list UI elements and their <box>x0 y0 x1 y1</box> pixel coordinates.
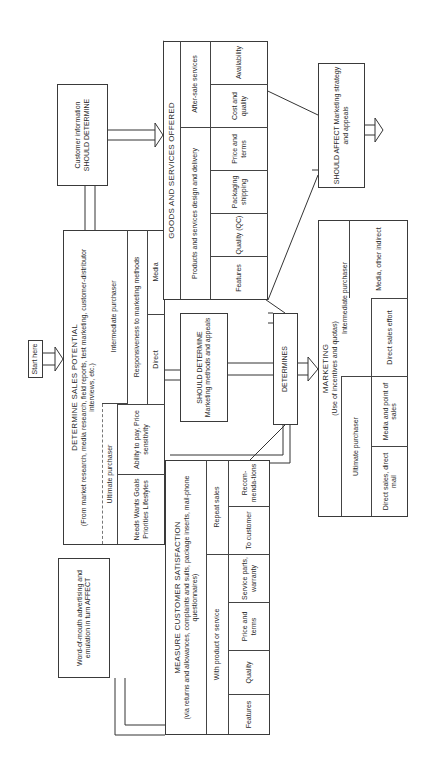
word-of-mouth-box: Word-of-mouth advertising and emulation … <box>58 558 110 678</box>
measure-features-cell: Features <box>228 694 270 734</box>
measure-to-customer-text: To customer <box>245 511 253 549</box>
word-of-mouth-label: Word-of-mouth advertising and emulation … <box>76 560 92 676</box>
marketing-ultimate-text: Ultimate purchaser <box>352 417 360 476</box>
measure-header: MEASURE CUSTOMER SATISFACTION (via retur… <box>166 461 206 734</box>
intermediate-purchaser-label: Intermediate purchaser <box>102 230 127 404</box>
marketing-intermediate-text: Intermediate purchaser <box>341 262 349 334</box>
measure-to-customer-cell: To customer <box>228 506 270 554</box>
measure-quality-text: Quality <box>245 662 253 684</box>
direct-cell: Direct <box>147 314 165 404</box>
measure-recommendations-cell: Recom-menda-tions <box>228 460 270 506</box>
direct-text: Direct <box>152 350 160 368</box>
marketing-direct-effort-cell: Direct sales effort <box>371 298 408 376</box>
marketing-direct-mail-text: Direct sales, direct mail <box>382 448 398 515</box>
after-sale-text: After-sale services <box>191 55 199 113</box>
ultimate-purchaser-label: Ultimate purchaser <box>102 404 117 544</box>
goods-price-cell: Price and terms <box>210 127 268 170</box>
measure-subtitle: (via returns and allowances, complaints … <box>183 462 199 733</box>
goods-quality-text: Quality (QC) <box>235 216 243 255</box>
ability-cell: Ability to pay, Price sensitivity <box>117 404 165 474</box>
determine-sales-potential-box: DETERMINE SALES POTENTIAL (From market r… <box>63 230 165 545</box>
determines-label: DETERMINES <box>281 346 289 392</box>
measure-quality-cell: Quality <box>228 650 270 694</box>
ultimate-purchaser-text: Ultimate purchaser <box>106 445 114 504</box>
repeat-sales-label: Repeat sales <box>206 460 228 554</box>
responsiveness-text: Responsiveness to marketing methods <box>133 257 141 378</box>
goods-packaging-text: Packaging shipping <box>231 172 247 212</box>
marketing-direct-mail-cell: Direct sales, direct mail <box>371 446 408 516</box>
measure-features-text: Features <box>245 701 253 729</box>
measure-service-text: Service parts, warranty <box>241 556 257 601</box>
goods-quality-cell: Quality (QC) <box>210 213 268 256</box>
measure-service-cell: Service parts, warranty <box>228 554 270 602</box>
determine-sales-subtitle: (From market research, media research, f… <box>80 232 96 543</box>
customer-information-label: Customer information SHOULD DETERMINE <box>74 86 90 184</box>
goods-availability-text: Availability <box>235 46 243 79</box>
measure-price-text: Price and terms <box>241 604 257 649</box>
goods-availability-cell: Availability <box>210 41 268 84</box>
determine-sales-title: DETERMINE SALES POTENTIAL <box>70 324 79 451</box>
should-determine-box: SHOULD DETERMINE Marketing methods and a… <box>180 313 228 422</box>
start-here-box: Start here <box>28 340 43 378</box>
marketing-media-other-text: Media, other indirect <box>375 227 383 290</box>
marketing-box: MARKETING (Use of incentives and quotas)… <box>318 220 408 517</box>
measure-satisfaction-box: MEASURE CUSTOMER SATISFACTION (via retur… <box>165 460 270 735</box>
goods-title-text: GOODS AND SERVICES OFFERED <box>167 102 176 239</box>
customer-information-box: Customer information SHOULD DETERMINE <box>57 84 108 186</box>
marketing-direct-effort-text: Direct sales effort <box>386 310 394 364</box>
measure-title: MEASURE CUSTOMER SATISFACTION <box>173 521 182 674</box>
with-product-label: With product or service <box>206 554 228 734</box>
needs-cell: Needs Wants Goals Priorities Lifestyles <box>117 474 165 544</box>
start-here-label: Start here <box>31 344 39 375</box>
products-design-label: Products and services design and deliver… <box>180 127 210 299</box>
needs-text: Needs Wants Goals Priorities Lifestyles <box>133 476 149 543</box>
measure-recommendations-text: Recom-menda-tions <box>241 461 257 505</box>
goods-price-text: Price and terms <box>231 129 247 169</box>
determines-box: DETERMINES <box>273 313 298 425</box>
goods-packaging-cell: Packaging shipping <box>210 170 268 213</box>
after-sale-label: After-sale services <box>180 41 210 127</box>
goods-features-text: Features <box>235 264 243 292</box>
products-label-text: Products and services design and deliver… <box>191 148 199 279</box>
marketing-flow-diagram: Start here DETERMINE SALES POTENTIAL (Fr… <box>0 0 430 775</box>
intermediate-purchaser-text: Intermediate purchaser <box>110 281 118 353</box>
marketing-media-pos-cell: Media and point of sales <box>371 376 408 446</box>
goods-features-cell: Features <box>210 256 268 299</box>
media-text: Media <box>152 262 160 281</box>
goods-services-box: GOODS AND SERVICES OFFERED Products and … <box>163 41 268 300</box>
repeat-sales-text: Repeat sales <box>213 487 221 528</box>
goods-cost-quality-text: Cost and quality <box>231 86 247 126</box>
marketing-media-other-cell: Media, other indirect <box>349 220 408 298</box>
should-determine-label: SHOULD DETERMINE Marketing methods and a… <box>196 315 212 420</box>
should-affect-label: SHOULD AFFECT Marketing strategy and app… <box>333 65 349 186</box>
determine-sales-header: DETERMINE SALES POTENTIAL (From market r… <box>64 231 102 544</box>
with-product-text: With product or service <box>213 609 221 681</box>
should-affect-box: SHOULD AFFECT Marketing strategy and app… <box>318 63 365 188</box>
marketing-ultimate-label: Ultimate purchaser <box>341 376 371 516</box>
goods-services-title: GOODS AND SERVICES OFFERED <box>164 42 180 299</box>
responsiveness-cell: Responsiveness to marketing methods <box>127 230 147 404</box>
measure-price-cell: Price and terms <box>228 602 270 650</box>
marketing-media-pos-text: Media and point of sales <box>382 378 398 445</box>
goods-cost-quality-cell: Cost and quality <box>210 84 268 127</box>
ability-text: Ability to pay, Price sensitivity <box>133 406 149 473</box>
